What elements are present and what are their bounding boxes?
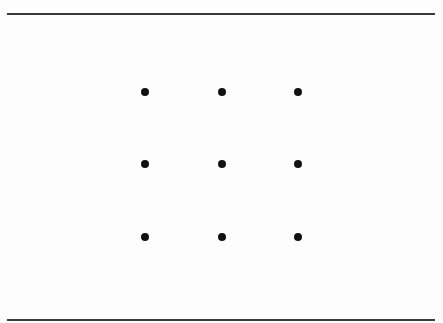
bottom-rule — [7, 319, 435, 321]
dot-r3-c3 — [294, 233, 302, 241]
dot-r3-c2 — [218, 233, 226, 241]
dot-r2-c1 — [141, 160, 149, 168]
dot-r1-c2 — [218, 88, 226, 96]
dot-r2-c2 — [218, 160, 226, 168]
dot-r1-c1 — [141, 88, 149, 96]
dot-r3-c1 — [141, 233, 149, 241]
dot-grid — [0, 0, 443, 323]
dot-r1-c3 — [294, 88, 302, 96]
dot-r2-c3 — [294, 160, 302, 168]
